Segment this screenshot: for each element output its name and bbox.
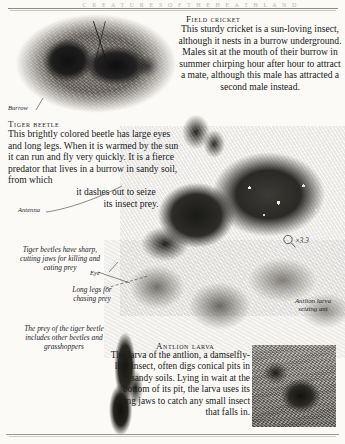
tiger-beetle-line-2: and long legs. When it is warmed by the — [8, 140, 163, 151]
top-rule-secondary — [10, 10, 336, 11]
antlion-larva-photo — [252, 345, 336, 427]
burrow-label: Burrow — [8, 104, 28, 111]
magnification-marker: ×3.3 — [282, 234, 330, 250]
elytra-spots — [237, 172, 327, 225]
top-rule — [8, 8, 338, 9]
tiger-beetle-line-1: This brightly colored beetle has large e… — [8, 128, 170, 139]
field-cricket-body: This sturdy cricket is a sun-loving inse… — [178, 23, 342, 93]
prey-caption: The prey of the tiger beetle includes ot… — [12, 325, 116, 351]
antenna-label: Antenna — [18, 206, 40, 213]
antlion-larva-body: The larva of the antlion, a damselfly-li… — [104, 350, 250, 418]
long-legs-leader-line — [106, 276, 152, 290]
bottom-rule-secondary — [9, 436, 336, 437]
bottom-rule — [6, 434, 339, 435]
eye-leader-line — [108, 262, 122, 274]
burrow-leader-line — [34, 98, 54, 112]
antlion-seizing-caption: Antlion larva seizing ant — [286, 297, 340, 313]
book-page: C R E A T U R E S O F T H E H E A T H L … — [0, 0, 345, 444]
magnification-value: ×3.3 — [295, 237, 309, 245]
antenna-leader-line — [44, 186, 128, 214]
eye-label: Eye — [90, 269, 100, 276]
